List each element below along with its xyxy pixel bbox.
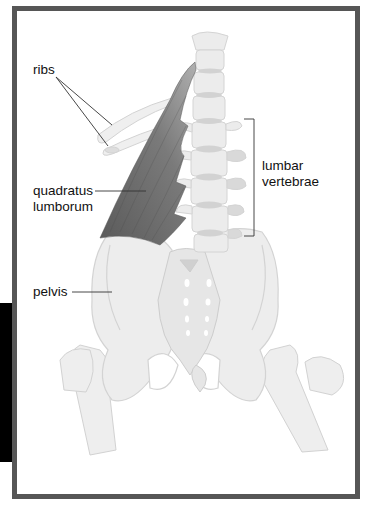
- label-ribs: ribs: [33, 62, 55, 78]
- label-quadratus-lumborum-line2: lumborum: [33, 199, 93, 215]
- label-lumbar-vertebrae-line2: vertebrae: [262, 174, 319, 190]
- label-lumbar-vertebrae-line1: lumbar: [262, 158, 303, 174]
- label-quadratus-lumborum-line1: quadratus: [33, 183, 93, 199]
- femur-right: [261, 345, 344, 452]
- anatomy-illustration: [0, 0, 367, 509]
- label-pelvis: pelvis: [33, 284, 68, 300]
